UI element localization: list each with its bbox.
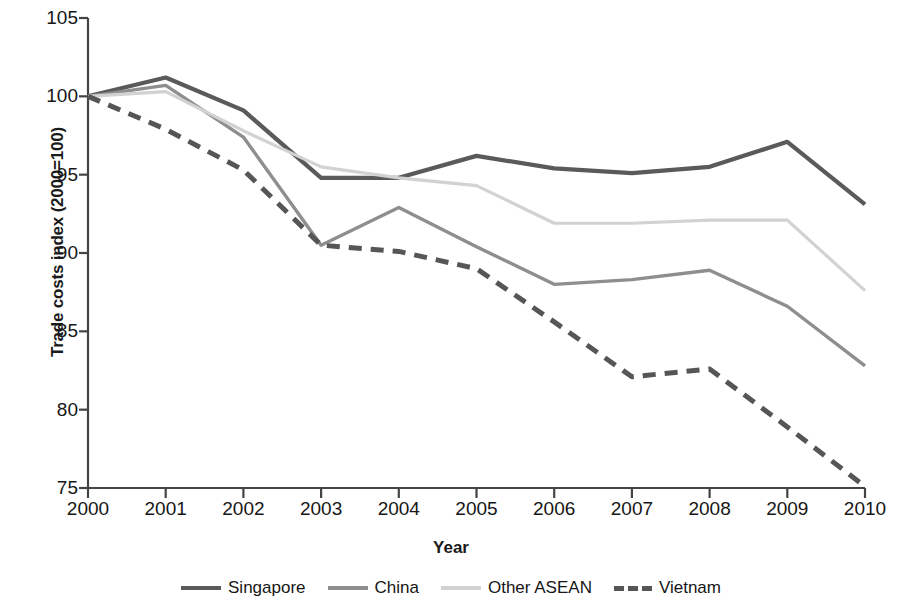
series-line-china bbox=[88, 85, 865, 365]
series-line-other-asean bbox=[88, 92, 865, 291]
legend-item-vietnam[interactable]: Vietnam bbox=[614, 578, 721, 598]
legend-label-other-asean: Other ASEAN bbox=[488, 578, 592, 598]
y-axis-tick-label: 95 bbox=[34, 165, 78, 184]
y-axis-tick-label: 80 bbox=[34, 400, 78, 419]
legend-item-other-asean[interactable]: Other ASEAN bbox=[441, 578, 592, 598]
legend-swatch-other-asean bbox=[441, 586, 481, 590]
legend-item-china[interactable]: China bbox=[328, 578, 419, 598]
x-axis-tick-label: 2008 bbox=[675, 498, 745, 520]
legend-swatch-vietnam bbox=[614, 586, 652, 591]
x-axis-tick-label: 2001 bbox=[131, 498, 201, 520]
x-axis-tick-label: 2004 bbox=[364, 498, 434, 520]
x-axis-tick-label: 2010 bbox=[830, 498, 900, 520]
legend-label-china: China bbox=[375, 578, 419, 598]
legend-swatch-singapore bbox=[181, 586, 221, 590]
y-axis-tick-label: 100 bbox=[34, 86, 78, 105]
x-axis-tick-label: 2000 bbox=[53, 498, 123, 520]
legend-label-vietnam: Vietnam bbox=[659, 578, 721, 598]
y-axis-tick-label: 105 bbox=[34, 8, 78, 27]
x-axis-tick-label: 2009 bbox=[752, 498, 822, 520]
y-axis-tick-label: 85 bbox=[34, 321, 78, 340]
x-axis-tick-label: 2007 bbox=[597, 498, 667, 520]
y-axis-tick-label: 75 bbox=[34, 478, 78, 497]
legend-swatch-china bbox=[328, 586, 368, 590]
chart-legend: SingaporeChinaOther ASEANVietnam bbox=[0, 578, 902, 598]
x-axis-title: Year bbox=[0, 538, 902, 558]
x-axis-tick-label: 2003 bbox=[286, 498, 356, 520]
legend-label-singapore: Singapore bbox=[228, 578, 306, 598]
trade-costs-line-chart: Trade costs index (2000=100) 75808590951… bbox=[0, 0, 902, 611]
y-axis-tick-label: 90 bbox=[34, 243, 78, 262]
legend-item-singapore[interactable]: Singapore bbox=[181, 578, 306, 598]
x-axis-tick-label: 2002 bbox=[208, 498, 278, 520]
x-axis-tick-label: 2005 bbox=[442, 498, 512, 520]
x-axis-tick-label: 2006 bbox=[519, 498, 589, 520]
